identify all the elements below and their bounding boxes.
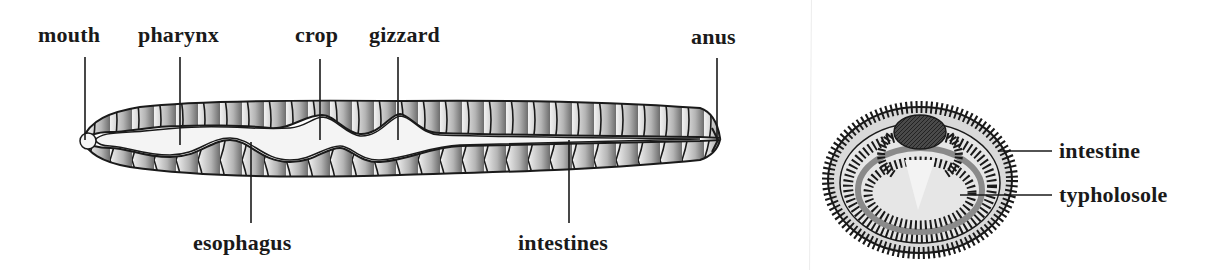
label-typhlosole: typholosole [1059,184,1168,206]
label-crop: crop [295,24,338,46]
label-esophagus: esophagus [193,232,291,254]
label-gizzard: gizzard [369,24,440,46]
label-mouth: mouth [38,24,100,46]
label-intestines: intestines [518,232,608,254]
worm-body [80,101,720,177]
label-intestine: intestine [1059,140,1140,162]
cross-section [828,107,1012,253]
label-anus: anus [691,26,736,48]
label-pharynx: pharynx [138,24,219,46]
